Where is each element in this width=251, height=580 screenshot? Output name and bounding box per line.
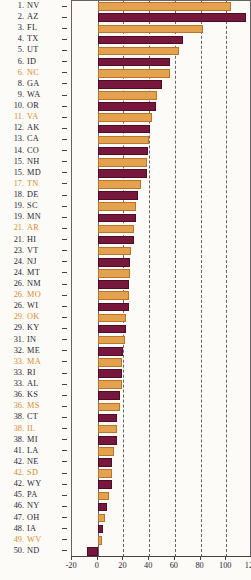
rank-number: 36. [14,400,24,411]
y-axis-tick [62,217,67,218]
gridline-100 [226,1,227,557]
rank-number: 21. [14,222,24,233]
rank-number: 41. [14,445,24,456]
category-label-nv: 1.NV [0,0,62,11]
y-axis-tick [62,195,67,196]
state-abbr: MD [27,167,41,178]
state-abbr: TX [27,33,39,44]
state-abbr: OH [27,512,40,523]
x-axis-tick-20 [122,556,123,560]
y-axis-tick [62,17,67,18]
bar-ar [98,225,134,234]
bar-tx [98,36,183,45]
state-abbr: MA [27,356,41,367]
bar-ia [98,525,103,534]
category-label-ks: 36.KS [0,389,62,400]
bar-mi [98,436,117,445]
category-label-id: 6.ID [0,56,62,67]
state-abbr: NJ [27,256,37,267]
rank-number: 48. [14,523,24,534]
plot-frame [71,0,251,556]
y-axis-tick [62,28,67,29]
category-label-mi: 38.MI [0,434,62,445]
state-abbr: KY [27,322,40,333]
y-axis-tick [62,83,67,84]
rank-number: 50. [14,545,24,556]
y-axis-tick [62,461,67,462]
state-abbr: NC [27,67,39,78]
category-label-de: 18.DE [0,189,62,200]
bar-sd [98,469,112,478]
x-axis-tick-40 [148,556,149,560]
state-abbr: AZ [27,11,39,22]
y-axis-tick [62,517,67,518]
bar-ct [98,414,117,423]
y-axis-tick [62,150,67,151]
y-axis-tick [62,395,67,396]
y-axis-tick [62,261,67,262]
rank-number: 6. [18,56,24,67]
bar-ny [98,503,107,512]
bar-ky [98,325,126,334]
state-abbr: SC [27,200,38,211]
rank-number: 49. [14,534,24,545]
bar-nv [98,2,232,11]
category-label-md: 15.MD [0,167,62,178]
y-axis-tick [62,417,67,418]
state-abbr: MT [27,267,40,278]
category-label-ny: 46.NY [0,500,62,511]
y-axis-tick [62,228,67,229]
state-abbr: TN [27,178,39,189]
category-label-in: 31.IN [0,334,62,345]
bar-la [98,447,115,456]
y-axis-tick [62,373,67,374]
state-abbr: AR [27,222,39,233]
state-abbr: FL [27,22,37,33]
state-abbr: IL [27,423,35,434]
rank-number: 46. [14,500,24,511]
state-abbr: SD [27,467,38,478]
rank-number: 19. [14,211,24,222]
state-abbr: WY [27,478,41,489]
rank-number: 13. [14,133,24,144]
category-label-pa: 45.PA [0,489,62,500]
rank-number: 11. [14,111,24,122]
y-axis-tick [62,272,67,273]
rank-number: 33. [14,378,24,389]
category-label-mn: 19.MN [0,211,62,222]
bar-de [98,191,138,200]
state-abbr: NM [27,278,41,289]
bar-nd [87,547,97,556]
rank-number: 4. [18,33,24,44]
category-label-ky: 29.KY [0,322,62,333]
category-label-wa: 9.WA [0,89,62,100]
rank-number: 29. [14,322,24,333]
category-label-nm: 26.NM [0,278,62,289]
category-label-ca: 13.CA [0,133,62,144]
category-label-al: 33.AL [0,378,62,389]
bar-va [98,113,152,122]
y-axis-tick [62,206,67,207]
rank-number: 5. [18,44,24,55]
bar-wv [98,536,102,545]
bar-ne [98,458,112,467]
rank-number: 31. [14,334,24,345]
y-axis-tick [62,161,67,162]
bar-ga [98,80,162,89]
category-label-il: 38.IL [0,423,62,434]
y-axis-tick [62,139,67,140]
y-axis-tick [62,473,67,474]
rank-number: 29. [14,311,24,322]
bar-chart: 1.NV2.AZ3.FL4.TX5.UT6.ID6.NC8.GA9.WA10.O… [0,0,251,580]
state-abbr: RI [27,367,36,378]
state-abbr: NY [27,500,40,511]
state-abbr: LA [27,445,39,456]
state-abbr: PA [27,489,37,500]
category-label-az: 2.AZ [0,11,62,22]
state-abbr: WV [27,534,41,545]
bar-vt [98,247,131,256]
category-label-nh: 15.NH [0,156,62,167]
y-axis-tick [62,106,67,107]
category-label-wy: 42.WY [0,478,62,489]
category-label-ga: 8.GA [0,78,62,89]
